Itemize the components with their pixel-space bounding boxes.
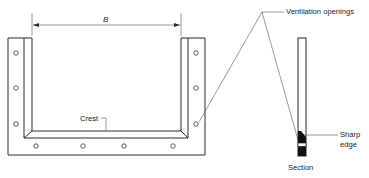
weir-diagram: B Crest Ventilation opening [0, 0, 369, 178]
ventilation-label: Ventilation openings [286, 7, 354, 16]
bolt-hole [14, 86, 18, 90]
bolt-hole [34, 144, 38, 148]
crest-label: Crest [80, 114, 99, 123]
bolt-holes [14, 51, 198, 148]
bolt-hole [14, 122, 18, 126]
bolt-hole [171, 144, 175, 148]
dimension-label: B [103, 15, 109, 24]
bolt-hole [122, 144, 126, 148]
section-view: Sharp edge Section [288, 38, 360, 172]
dimension-b: B [32, 13, 181, 36]
bolt-hole [194, 51, 198, 55]
section-label: Section [288, 163, 313, 172]
bolt-hole [81, 144, 85, 148]
bolt-hole [14, 51, 18, 55]
weir-plate-elevation [8, 38, 205, 155]
crest-callout: Crest [80, 114, 106, 131]
sharp-edge-label-line2: edge [340, 140, 357, 149]
bolt-hole [194, 122, 198, 126]
ventilation-callout: Ventilation openings [199, 7, 354, 140]
bolt-hole [194, 86, 198, 90]
sharp-edge-label-line1: Sharp [340, 130, 360, 139]
